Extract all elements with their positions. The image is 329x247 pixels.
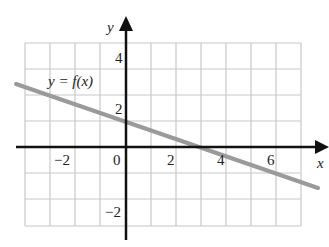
x-axis-label: x xyxy=(316,155,324,171)
graph: x y −2 0 2 4 6 4 2 −2 y = f(x) xyxy=(0,0,329,247)
x-tick-2: 2 xyxy=(167,152,175,168)
x-tick-6: 6 xyxy=(267,152,275,168)
x-tick-4: 4 xyxy=(217,152,225,168)
curve-label: y = f(x) xyxy=(46,73,93,90)
x-axis-arrow-icon xyxy=(315,140,329,154)
y-axis-arrow-icon xyxy=(119,16,133,31)
y-axis-label: y xyxy=(105,19,114,35)
x-tick--2: −2 xyxy=(54,152,70,168)
x-tick-0: 0 xyxy=(113,152,121,168)
y-tick-2: 2 xyxy=(115,101,123,117)
y-tick--2: −2 xyxy=(105,204,121,220)
y-tick-4: 4 xyxy=(115,50,123,66)
